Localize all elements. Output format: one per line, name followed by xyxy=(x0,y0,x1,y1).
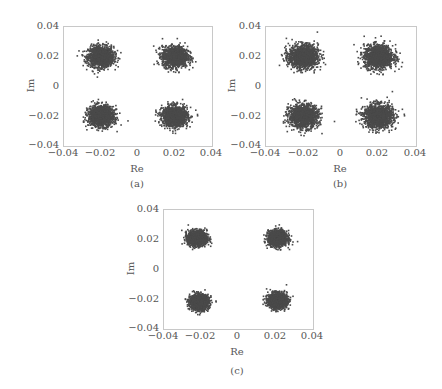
plot-area-c xyxy=(163,209,314,330)
xtick: 0.02 xyxy=(257,331,293,341)
panel-c: 0.04 0.02 0 −0.02 −0.04 −0.04 −0.02 0 0.… xyxy=(0,0,442,389)
ytick: 0.04 xyxy=(123,204,159,214)
ytick: −0.02 xyxy=(123,294,159,304)
xtick: 0.04 xyxy=(294,331,330,341)
panel-caption: (c) xyxy=(222,365,252,376)
ytick: 0.02 xyxy=(123,234,159,244)
xtick: −0.02 xyxy=(182,331,218,341)
y-axis-label: Im xyxy=(125,259,136,279)
xtick: −0.04 xyxy=(145,331,181,341)
x-axis-label: Re xyxy=(222,346,252,357)
scatter-points-c xyxy=(164,210,313,329)
xtick: 0 xyxy=(219,331,255,341)
